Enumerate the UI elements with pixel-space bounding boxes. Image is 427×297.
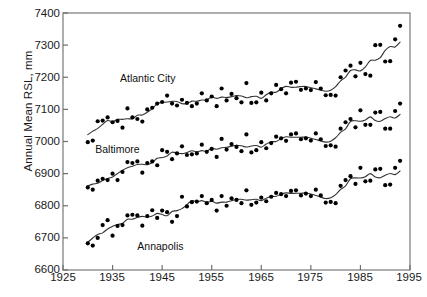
data-point xyxy=(289,189,293,193)
data-point xyxy=(145,214,149,218)
data-point xyxy=(160,148,164,152)
data-point xyxy=(120,126,124,130)
data-point xyxy=(373,110,377,114)
data-point xyxy=(363,123,367,127)
data-point xyxy=(210,94,214,98)
data-point xyxy=(398,159,402,163)
data-point xyxy=(125,213,129,217)
data-point xyxy=(319,193,323,197)
data-point xyxy=(150,208,154,212)
data-point xyxy=(215,208,219,212)
data-point xyxy=(200,194,204,198)
data-point xyxy=(180,195,184,199)
data-point xyxy=(353,125,357,129)
data-point xyxy=(378,110,382,114)
data-point xyxy=(269,195,273,199)
data-point xyxy=(101,119,105,123)
data-point xyxy=(334,93,338,97)
data-point xyxy=(274,135,278,139)
data-point xyxy=(224,98,228,102)
data-point xyxy=(393,37,397,41)
data-point xyxy=(254,100,258,104)
data-point xyxy=(289,132,293,136)
data-point xyxy=(165,150,169,154)
data-point xyxy=(244,188,248,192)
series-label-atlantic-city: Atlantic City xyxy=(120,72,175,84)
data-point xyxy=(140,119,144,123)
data-point xyxy=(120,223,124,227)
series-label-baltimore: Baltimore xyxy=(95,143,139,155)
data-point xyxy=(205,150,209,154)
series-label-annapolis: Annapolis xyxy=(137,240,183,252)
data-point xyxy=(145,107,149,111)
data-point xyxy=(224,204,228,208)
data-point xyxy=(195,101,199,105)
data-point xyxy=(393,166,397,170)
sea-level-chart: Annual Mean RSL, mm 7400 7300 7200 7100 … xyxy=(0,0,427,297)
data-point xyxy=(229,196,233,200)
data-point xyxy=(195,151,199,155)
data-point xyxy=(279,192,283,196)
data-point xyxy=(229,142,233,146)
data-point xyxy=(373,167,377,171)
data-point xyxy=(388,59,392,63)
data-point xyxy=(294,131,298,135)
data-point xyxy=(86,140,90,144)
data-point xyxy=(195,199,199,203)
data-point xyxy=(115,178,119,182)
data-point xyxy=(343,68,347,72)
data-point xyxy=(368,179,372,183)
data-point xyxy=(205,201,209,205)
data-point xyxy=(398,101,402,105)
data-point xyxy=(343,178,347,182)
data-point xyxy=(274,83,278,87)
data-point xyxy=(130,115,134,119)
data-point xyxy=(343,120,347,124)
data-point xyxy=(180,144,184,148)
data-point xyxy=(96,236,100,240)
data-point xyxy=(135,159,139,163)
data-point xyxy=(299,193,303,197)
data-point xyxy=(234,198,238,202)
data-point xyxy=(155,101,159,105)
data-point xyxy=(289,81,293,85)
data-point xyxy=(334,201,338,205)
data-point xyxy=(239,149,243,153)
data-point xyxy=(324,200,328,204)
data-point xyxy=(170,157,174,161)
data-point xyxy=(398,24,402,28)
data-point xyxy=(299,88,303,92)
data-point xyxy=(106,115,110,119)
data-point xyxy=(249,150,253,154)
data-point xyxy=(294,80,298,84)
data-point xyxy=(363,179,367,183)
data-point xyxy=(383,183,387,187)
data-point xyxy=(368,123,372,127)
data-point xyxy=(96,179,100,183)
data-point xyxy=(249,101,253,105)
data-point xyxy=(96,119,100,123)
data-point xyxy=(234,96,238,100)
data-point xyxy=(91,188,95,192)
data-point xyxy=(101,223,105,227)
data-point xyxy=(279,87,283,91)
data-point xyxy=(358,166,362,170)
data-point xyxy=(140,171,144,175)
data-point xyxy=(120,170,124,174)
data-point xyxy=(170,101,174,105)
data-point xyxy=(254,148,258,152)
data-point xyxy=(378,43,382,47)
data-point xyxy=(210,147,214,151)
data-point xyxy=(264,98,268,102)
data-point xyxy=(110,234,114,238)
data-point xyxy=(314,131,318,135)
data-point xyxy=(319,86,323,90)
data-point xyxy=(200,143,204,147)
data-point xyxy=(115,224,119,228)
data-point xyxy=(220,137,224,141)
data-point xyxy=(135,213,139,217)
data-point xyxy=(284,194,288,198)
data-point xyxy=(259,196,263,200)
data-point xyxy=(353,182,357,186)
data-point xyxy=(106,178,110,182)
